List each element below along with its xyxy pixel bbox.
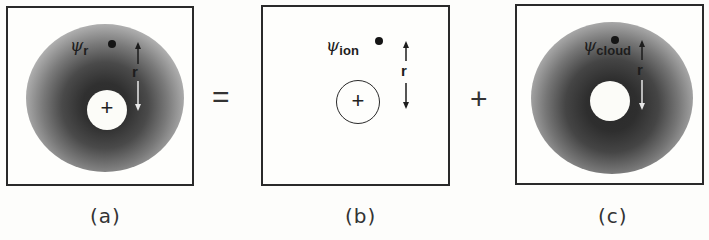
panel-c: ψcloud r — [515, 4, 704, 185]
equals-operator: = — [212, 82, 230, 112]
r-label: r — [132, 63, 138, 80]
caption-a: (a) — [90, 204, 121, 228]
psi-label: ψr — [70, 35, 88, 58]
positive-charge-icon: + — [346, 90, 370, 112]
psi-label: ψion — [326, 35, 359, 58]
point-marker — [375, 37, 383, 45]
caption-b: (b) — [345, 204, 376, 228]
r-label: r — [401, 62, 407, 79]
panel-a: + ψr r — [6, 6, 194, 186]
caption-c: (c) — [598, 204, 628, 228]
point-marker — [611, 36, 619, 44]
r-label: r — [637, 61, 643, 78]
positive-charge-icon: + — [95, 97, 119, 119]
panel-b: + ψion r — [261, 5, 450, 186]
cloud-hole — [590, 81, 630, 121]
point-marker — [108, 40, 116, 48]
plus-operator: + — [470, 84, 488, 114]
psi-label: ψcloud — [583, 35, 631, 58]
